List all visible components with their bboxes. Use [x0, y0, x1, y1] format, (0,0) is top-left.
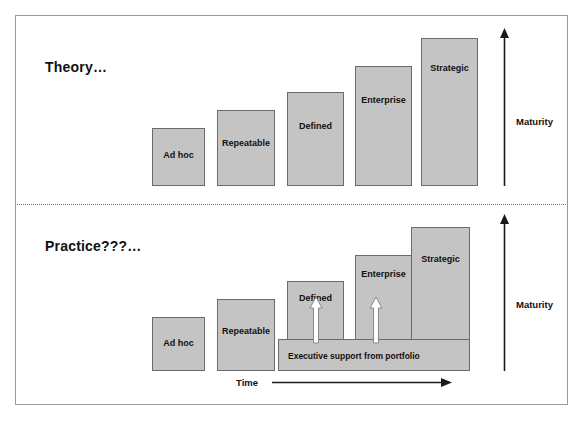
panel-title-theory: Theory… [45, 59, 107, 75]
panel-title-practice: Practice???… [45, 238, 142, 254]
bar-top-strategic [421, 38, 478, 186]
bar-bottom-enterprise [355, 255, 412, 340]
support-push-arrow-defined [309, 296, 323, 344]
bar-label-top-strategic: Strategic [421, 63, 478, 73]
bar-label-bottom-enterprise: Enterprise [353, 269, 414, 279]
figure-canvas: Theory… Ad hoc Repeatable Defined Enterp… [0, 0, 584, 421]
bar-top-defined [287, 92, 344, 186]
time-axis-label: Time [236, 377, 258, 388]
panel-divider [17, 204, 566, 205]
maturity-axis-top [499, 28, 510, 187]
bar-label-bottom-repeatable: Repeatable [217, 326, 275, 336]
bar-label-bottom-ad-hoc: Ad hoc [152, 338, 205, 348]
bar-top-repeatable [217, 110, 275, 186]
bar-top-enterprise [355, 66, 412, 186]
support-push-arrow-enterprise [369, 296, 383, 344]
executive-support-label: Executive support from portfolio [288, 351, 420, 361]
maturity-axis-label-top: Maturity [516, 116, 553, 127]
bar-label-top-enterprise: Enterprise [353, 95, 414, 105]
bar-label-top-ad-hoc: Ad hoc [152, 150, 205, 160]
bar-label-top-repeatable: Repeatable [217, 138, 275, 148]
maturity-axis-label-bottom: Maturity [516, 299, 553, 310]
time-axis-arrow [272, 377, 452, 388]
maturity-axis-bottom [499, 214, 510, 372]
bar-label-bottom-strategic: Strategic [411, 254, 470, 264]
bar-label-top-defined: Defined [287, 121, 344, 131]
